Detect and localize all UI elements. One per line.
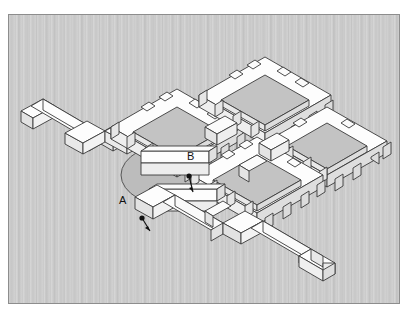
isometric-site-drawing bbox=[9, 15, 400, 304]
figure-frame: A B bbox=[8, 14, 400, 304]
figure-root: A B bbox=[0, 0, 414, 317]
label-a-arrowhead bbox=[145, 226, 150, 231]
point-label-a: A bbox=[119, 195, 126, 206]
point-label-b: B bbox=[187, 151, 194, 162]
